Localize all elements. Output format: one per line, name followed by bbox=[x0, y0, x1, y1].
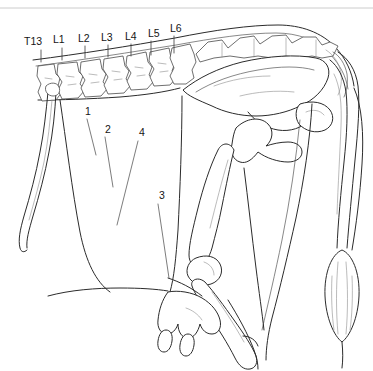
vertebra-label-l1: L1 bbox=[53, 33, 65, 45]
leader-n2 bbox=[105, 137, 113, 187]
ventral-belly-line bbox=[48, 288, 168, 296]
teat-right bbox=[180, 334, 194, 356]
vertebra-label-l2: L2 bbox=[78, 32, 90, 44]
femoral-condyles bbox=[187, 256, 222, 285]
vertebra-label-l4: L4 bbox=[125, 30, 137, 42]
anatomy-figure: T13L1L2L3L4L5L6 1234 bbox=[0, 0, 373, 371]
vertebra-label-l5: L5 bbox=[148, 27, 160, 39]
number-label-n2: 2 bbox=[105, 123, 111, 135]
number-label-group: 1234 bbox=[85, 105, 165, 201]
vertebra-label-l3: L3 bbox=[101, 31, 113, 43]
rib-head bbox=[45, 83, 59, 96]
tail-switch-tip bbox=[342, 342, 343, 368]
number-label-n3: 3 bbox=[159, 189, 165, 201]
leader-n1 bbox=[87, 119, 96, 155]
flank-contour bbox=[60, 100, 110, 292]
femoral-head-trochanter bbox=[231, 119, 302, 162]
teat-left bbox=[158, 330, 172, 352]
lumbar-vertebrae-group bbox=[37, 44, 196, 101]
rib-13-midline bbox=[29, 100, 52, 220]
rib-13-outer bbox=[19, 92, 48, 252]
vertebra-label-t13: T13 bbox=[24, 35, 42, 47]
tail-skin-outer bbox=[352, 88, 363, 250]
last-rib-group bbox=[19, 83, 59, 252]
leader-n4 bbox=[117, 141, 138, 225]
tail-group bbox=[325, 52, 363, 368]
leader-n3 bbox=[158, 204, 169, 278]
tail-switch bbox=[325, 250, 359, 342]
thigh-front-contour bbox=[170, 96, 182, 292]
far-limb-contour bbox=[244, 168, 264, 330]
ischial-tuberosity bbox=[296, 102, 333, 132]
tail-midline bbox=[334, 74, 341, 214]
femur-group bbox=[187, 119, 302, 285]
vertebra-label-group: T13L1L2L3L4L5L6 bbox=[24, 22, 182, 47]
number-leader-group bbox=[87, 119, 169, 278]
rib-13-inner bbox=[27, 92, 56, 248]
anatomy-drawing-canvas: T13L1L2L3L4L5L6 1234 bbox=[0, 0, 373, 371]
number-label-n4: 4 bbox=[139, 126, 145, 138]
number-label-n1: 1 bbox=[85, 105, 91, 117]
vertebra-label-l6: L6 bbox=[170, 22, 182, 34]
